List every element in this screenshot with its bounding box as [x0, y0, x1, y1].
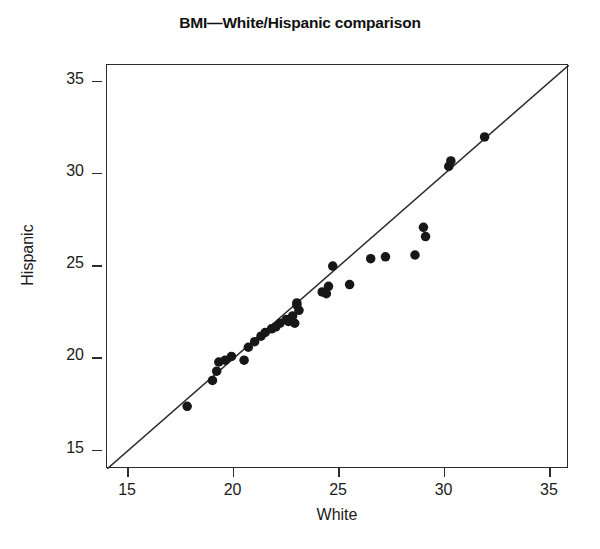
y-tick-mark — [92, 450, 102, 452]
scatter-point — [212, 366, 222, 376]
x-tick-mark — [549, 468, 551, 477]
x-tick-label: 35 — [519, 481, 579, 499]
y-tick-mark — [92, 265, 102, 267]
scatter-point — [345, 280, 355, 290]
y-tick-mark — [92, 357, 102, 359]
y-axis-label: Hispanic — [19, 165, 37, 345]
scatter-point — [294, 306, 304, 316]
x-tick-mark — [127, 468, 129, 477]
scatter-point — [366, 254, 376, 263]
scatter-point — [480, 132, 490, 142]
x-tick-label: 30 — [414, 481, 474, 499]
scatter-point — [381, 252, 391, 262]
chart-figure: BMI—White/Hispanic comparison 1520253035… — [0, 0, 600, 549]
y-tick-mark — [92, 173, 102, 175]
scatter-point — [290, 319, 300, 329]
scatter-point — [410, 250, 420, 260]
plot-svg — [107, 65, 569, 469]
scatter-point — [421, 232, 431, 242]
scatter-point — [419, 223, 429, 233]
y-tick-mark — [92, 81, 102, 83]
y-tick-label: 15 — [24, 439, 84, 457]
y-tick-label: 20 — [24, 346, 84, 364]
chart-title: BMI—White/Hispanic comparison — [0, 14, 600, 32]
y-tick-label: 35 — [24, 70, 84, 88]
identity-reference-line — [107, 65, 569, 469]
x-axis-label: White — [106, 506, 568, 524]
plot-area — [106, 64, 568, 468]
scatter-point — [324, 282, 334, 292]
x-tick-mark — [338, 468, 340, 477]
x-tick-label: 20 — [203, 481, 263, 499]
x-tick-mark — [233, 468, 235, 477]
scatter-point — [208, 376, 218, 386]
scatter-point — [328, 261, 338, 271]
scatter-point — [227, 352, 237, 362]
x-tick-label: 15 — [97, 481, 157, 499]
scatter-point — [239, 355, 249, 365]
x-tick-mark — [444, 468, 446, 477]
scatter-point — [446, 156, 456, 166]
x-tick-label: 25 — [308, 481, 368, 499]
scatter-point — [182, 402, 192, 412]
